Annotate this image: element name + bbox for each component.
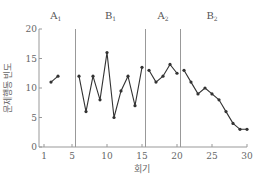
y-tick-label: 0 bbox=[31, 142, 37, 152]
series-b2 bbox=[182, 69, 248, 131]
phase-lines bbox=[76, 29, 181, 147]
data-point bbox=[140, 66, 143, 69]
data-point bbox=[49, 81, 52, 84]
data-point bbox=[77, 75, 80, 78]
data-point bbox=[147, 69, 150, 72]
data-point bbox=[189, 81, 192, 84]
axes: 05101520151015202530 bbox=[26, 24, 253, 161]
series-line bbox=[79, 53, 142, 118]
phase-label-b2: B2 bbox=[206, 10, 217, 22]
data-point bbox=[224, 110, 227, 113]
phase-label-a1: A1 bbox=[49, 10, 61, 22]
x-tick-label: 15 bbox=[136, 151, 148, 161]
data-point bbox=[98, 98, 101, 101]
data-point bbox=[238, 128, 241, 131]
x-axis-title: 회기 bbox=[134, 164, 150, 174]
data-point bbox=[182, 69, 185, 72]
data-point bbox=[231, 122, 234, 125]
data-point bbox=[175, 72, 178, 75]
data-point bbox=[84, 110, 87, 113]
y-tick-label: 20 bbox=[26, 24, 38, 34]
data-point bbox=[203, 86, 206, 89]
series-b1 bbox=[77, 51, 143, 119]
x-tick-label: 1 bbox=[41, 151, 47, 161]
data-point bbox=[210, 92, 213, 95]
data-point bbox=[126, 75, 129, 78]
x-tick-label: 10 bbox=[101, 151, 113, 161]
data-point bbox=[196, 92, 199, 95]
data-point bbox=[112, 116, 115, 119]
data-point bbox=[91, 75, 94, 78]
data-point bbox=[119, 89, 122, 92]
series-a1 bbox=[49, 75, 59, 84]
y-tick-label: 15 bbox=[26, 54, 38, 64]
data-point bbox=[168, 63, 171, 66]
x-tick-label: 30 bbox=[241, 151, 253, 161]
data-series bbox=[49, 51, 248, 131]
phase-labels: A1B1A2B2 bbox=[49, 10, 217, 22]
data-point bbox=[133, 104, 136, 107]
data-point bbox=[105, 51, 108, 54]
y-axis-title: 문제행동 빈도 bbox=[2, 63, 13, 114]
data-point bbox=[154, 81, 157, 84]
x-tick-label: 20 bbox=[171, 151, 183, 161]
data-point bbox=[161, 75, 164, 78]
series-a2 bbox=[147, 63, 178, 84]
y-tick-label: 5 bbox=[31, 113, 37, 123]
series-line bbox=[184, 70, 247, 129]
data-point bbox=[245, 128, 248, 131]
phase-label-a2: A2 bbox=[156, 10, 168, 22]
x-tick-label: 5 bbox=[69, 151, 75, 161]
data-point bbox=[217, 98, 220, 101]
x-tick-label: 25 bbox=[206, 151, 218, 161]
phase-label-b1: B1 bbox=[105, 10, 116, 22]
y-tick-label: 10 bbox=[26, 83, 38, 93]
data-point bbox=[56, 75, 59, 78]
chart: 05101520151015202530 A1B1A2B2 회기 문제행동 빈도 bbox=[0, 0, 262, 180]
series-line bbox=[149, 64, 177, 82]
